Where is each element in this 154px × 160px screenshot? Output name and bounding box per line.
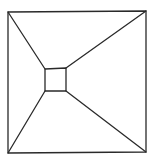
connector-bottom-left	[8, 91, 45, 153]
connector-bottom-right	[66, 91, 146, 152]
diagram-canvas	[0, 0, 154, 160]
outer-square	[8, 11, 146, 153]
inner-square	[45, 68, 66, 91]
connector-top-left	[8, 12, 45, 69]
connector-top-right	[66, 11, 146, 68]
